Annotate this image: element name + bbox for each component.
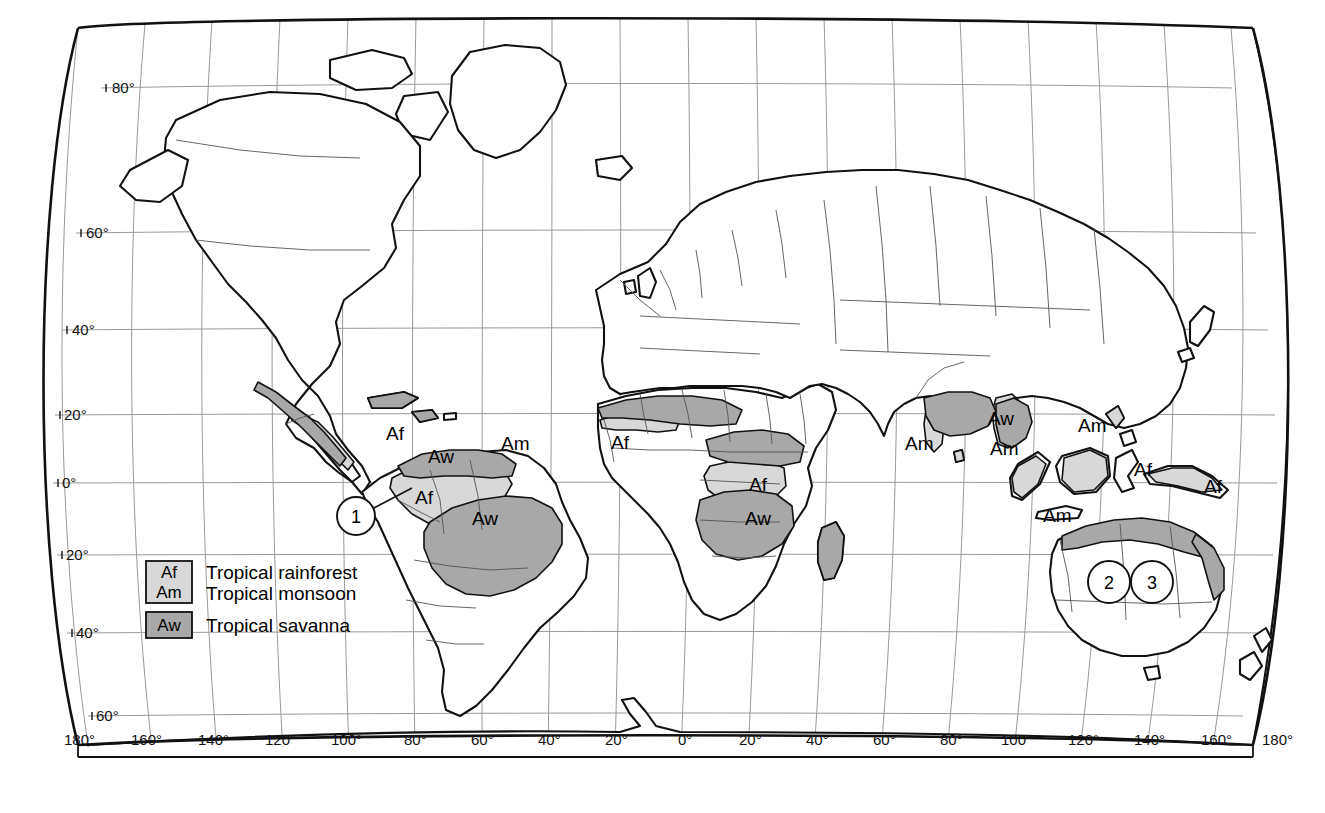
- legend-key-aw: Aw: [157, 616, 181, 635]
- climate-label-af-amazon: Af: [415, 487, 434, 508]
- legend-key-am: Am: [156, 583, 182, 602]
- lon-label-20w: 20°: [605, 731, 628, 748]
- lon-label-160e: 160°: [1201, 731, 1232, 748]
- land-ireland: [624, 280, 636, 294]
- lon-label-140e: 140°: [1134, 731, 1165, 748]
- lat-label-60n: 60°: [86, 224, 109, 241]
- climate-label-aw-india: Aw: [988, 408, 1014, 429]
- map-body: [0, 0, 1325, 813]
- lat-label-0: 0°: [62, 474, 76, 491]
- land-tasmania: [1144, 666, 1160, 680]
- climate-label-aw-brazil: Aw: [472, 508, 498, 529]
- climate-label-af-caribbean: Af: [386, 423, 405, 444]
- lat-label-80n: 80°: [112, 79, 135, 96]
- climate-label-am-atlantic: Am: [501, 433, 530, 454]
- lon-label-100w: 100°: [331, 731, 362, 748]
- marker-3-number: 3: [1147, 573, 1157, 593]
- climate-label-am-southchinasea: Am: [1078, 415, 1107, 436]
- world-climate-map: 80° 60° 40° 20° 0° 20° 40° 60° 180° 160°…: [0, 0, 1325, 813]
- lon-label-60w: 60°: [471, 731, 494, 748]
- climate-label-am-arabiansea: Am: [905, 433, 934, 454]
- land-philippines-south: [1120, 430, 1136, 446]
- lon-label-180w: 180°: [64, 731, 95, 748]
- legend-label-af: Tropical rainforest: [206, 562, 358, 583]
- lat-label-60s: 60°: [96, 707, 119, 724]
- marker-1-number: 1: [351, 507, 361, 527]
- lon-label-40w: 40°: [538, 731, 561, 748]
- marker-3[interactable]: 3: [1131, 561, 1173, 603]
- lat-label-20s: 20°: [66, 546, 89, 563]
- lon-label-140w: 140°: [198, 731, 229, 748]
- legend-label-am: Tropical monsoon: [206, 583, 356, 604]
- climate-label-af-moluccas: Af: [1134, 459, 1153, 480]
- lon-label-100e: 100°: [1001, 731, 1032, 748]
- lon-label-120e: 120°: [1068, 731, 1099, 748]
- legend-key-af: Af: [161, 563, 177, 582]
- marker-2-number: 2: [1104, 573, 1114, 593]
- land-puerto-rico: [444, 413, 456, 420]
- land-japan-south: [1178, 348, 1194, 362]
- legend-label-aw: Tropical savanna: [206, 615, 350, 636]
- lat-label-20n: 20°: [64, 406, 87, 423]
- lat-label-40n: 40°: [72, 321, 95, 338]
- lon-label-60e: 60°: [873, 731, 896, 748]
- zone-af-sri-lanka: [954, 450, 964, 462]
- lon-label-180e: 180°: [1262, 731, 1293, 748]
- climate-label-am-java: Am: [1043, 505, 1072, 526]
- climate-label-af-congo: Af: [749, 474, 768, 495]
- lon-label-120w: 120°: [265, 731, 296, 748]
- climate-label-am-bayofbengal: Am: [990, 438, 1019, 459]
- climate-label-aw-africa: Aw: [745, 508, 771, 529]
- lat-label-40s: 40°: [76, 624, 99, 641]
- marker-2[interactable]: 2: [1088, 561, 1130, 603]
- map-svg: 80° 60° 40° 20° 0° 20° 40° 60° 180° 160°…: [0, 0, 1325, 813]
- lon-label-80e: 80°: [940, 731, 963, 748]
- lon-label-40e: 40°: [806, 731, 829, 748]
- climate-label-af-pacific: Af: [1204, 476, 1223, 497]
- lon-label-0: 0°: [678, 731, 692, 748]
- climate-label-af-westafrica: Af: [611, 432, 630, 453]
- lon-label-20e: 20°: [739, 731, 762, 748]
- climate-label-aw-venezuela: Aw: [428, 446, 454, 467]
- lon-label-80w: 80°: [404, 731, 427, 748]
- map-legend: Af Am Tropical rainforest Tropical monso…: [146, 561, 358, 638]
- lon-label-160w: 160°: [131, 731, 162, 748]
